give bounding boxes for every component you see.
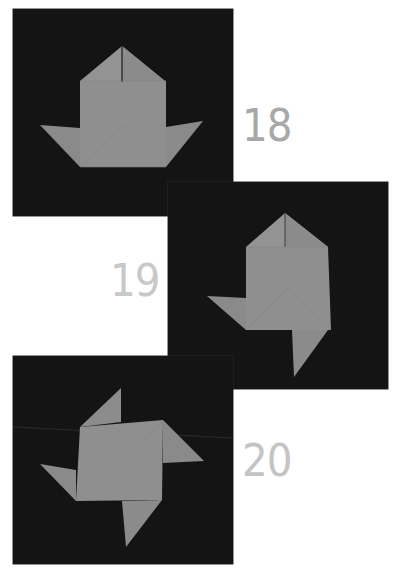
top-flap bbox=[80, 388, 121, 427]
center-square bbox=[76, 420, 163, 501]
step-number-20: 20 bbox=[242, 439, 292, 483]
bottom-flap bbox=[292, 330, 328, 377]
step-number-18: 18 bbox=[242, 104, 292, 148]
step-number-19: 19 bbox=[110, 259, 160, 303]
right-flap bbox=[166, 121, 203, 167]
origami-step-20-illustration bbox=[13, 356, 233, 564]
left-flap bbox=[40, 125, 80, 167]
left-flap bbox=[207, 296, 246, 330]
bottom-flap bbox=[122, 500, 162, 547]
left-flap bbox=[40, 464, 76, 501]
right-flap bbox=[163, 420, 204, 463]
step-20-photo bbox=[13, 356, 233, 564]
